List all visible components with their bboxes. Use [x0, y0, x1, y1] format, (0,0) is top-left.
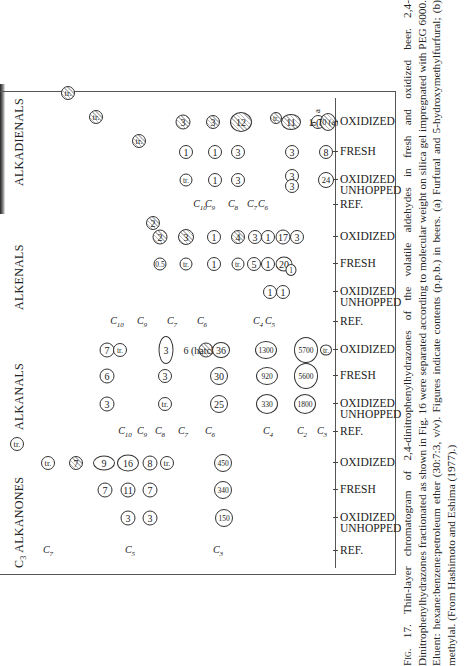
reference-carbon-label: C10: [118, 425, 132, 439]
lane-tick: [333, 462, 338, 463]
caption-text: Thin-layer chromatogram of 2,4-dinitroph…: [401, 0, 457, 666]
group-title-alkenals: ALKENALS: [12, 244, 27, 310]
lane-label: OXIDIZEDUNHOPPED: [340, 398, 401, 420]
tlc-spot: 3: [159, 336, 174, 364]
tlc-spot: 7: [143, 483, 158, 498]
tlc-spot: 1: [207, 230, 221, 244]
reference-carbon-label: C7: [167, 315, 177, 329]
lane-label: OXIDIZEDUNHOPPED: [340, 286, 401, 308]
lane-tick: [333, 349, 338, 350]
lane-label: FRESH: [340, 146, 376, 157]
tlc-spot: 3: [121, 511, 136, 526]
lane-label: REF.: [340, 426, 363, 437]
tlc-spot: 16: [117, 455, 139, 472]
tlc-spot: 2: [146, 216, 160, 230]
tlc-spot: 17: [276, 230, 291, 245]
tlc-spot: 330: [256, 394, 278, 414]
tlc-spot: 11: [121, 483, 136, 498]
tlc-spot: tr.: [180, 174, 193, 187]
tlc-spot: tr.: [61, 86, 75, 100]
lane-tick: [333, 204, 338, 205]
group-title-alkanones: C3 ALKANONES: [12, 477, 28, 568]
tlc-spot: 12: [230, 112, 252, 132]
tlc-spot: 9: [93, 456, 115, 471]
tlc-spot: 1: [208, 173, 222, 187]
tlc-spot: tr.: [10, 437, 24, 451]
tlc-spot: 8: [143, 456, 158, 471]
reference-carbon-label: C8: [228, 198, 238, 212]
reference-carbon-label: C4: [263, 425, 273, 439]
figure-caption: Fig. 17. Thin-layer chromatogram of 2,4-…: [400, 0, 458, 666]
tlc-spot: 1: [208, 145, 222, 159]
frame-right-line: [0, 91, 396, 92]
tlc-spot: 6: [100, 369, 115, 384]
tlc-spot: 1: [263, 285, 277, 299]
tlc-spot: 150: [215, 509, 233, 527]
tlc-spot: 3: [178, 229, 194, 245]
reference-carbon-label: C9: [205, 198, 215, 212]
reference-carbon-label: C7: [43, 544, 53, 558]
tlc-spot: 1: [286, 264, 297, 276]
rotated-figure: C3 ALKANONES ALKANALS ALKENALS ALKADIENA…: [0, 0, 469, 666]
lane-tick: [333, 517, 338, 518]
tlc-spot: 3: [285, 179, 299, 193]
tlc-spot: tr.: [232, 258, 245, 271]
lane-label: OXIDIZED: [340, 457, 395, 468]
tlc-spot: 3: [231, 173, 245, 187]
reference-carbon-label: C6: [197, 315, 207, 329]
tlc-spot: 1: [261, 257, 275, 271]
frame-left-line: [0, 574, 396, 575]
reference-carbon-label: C6: [205, 425, 215, 439]
tlc-spot: 1: [276, 285, 290, 299]
tlc-spot: 1: [261, 230, 275, 244]
reference-carbon-label: C5: [125, 544, 135, 558]
tlc-spot: 36: [212, 342, 230, 358]
lane-tick: [333, 550, 338, 551]
lane-label: REF.: [340, 316, 363, 327]
reference-carbon-label: C6: [258, 198, 268, 212]
lane-label: OXIDIZEDUNHOPPED: [340, 174, 401, 196]
tlc-spot: 1: [179, 145, 193, 159]
lane-label: REF.: [340, 545, 363, 556]
reference-carbon-label: C4: [253, 315, 263, 329]
tlc-spot: 5: [247, 257, 261, 271]
tlc-spot: tr.: [160, 456, 174, 470]
tlc-spot: 30: [210, 367, 228, 385]
tlc-spot: 0.5: [154, 258, 167, 271]
tlc-spot: 5700: [294, 337, 318, 363]
lane-label: FRESH: [340, 258, 376, 269]
tlc-spot: 70 (a): [320, 113, 336, 131]
caption-fig-label: Fig. 17.: [401, 624, 413, 666]
tlc-spot: 3: [231, 145, 245, 159]
tlc-spot: 450: [214, 454, 232, 472]
reference-carbon-label: C2: [297, 425, 307, 439]
reference-carbon-label: C9: [137, 425, 147, 439]
lane-tick: [333, 236, 338, 237]
tlc-spot: 24: [318, 172, 334, 188]
tlc-spot: tr.: [41, 456, 55, 470]
tlc-spot: 1300: [255, 341, 277, 359]
tlc-spot: tr.: [158, 397, 172, 411]
reference-carbon-label: C7: [178, 425, 188, 439]
lane-tick: [333, 151, 338, 152]
tlc-spot: 3: [176, 115, 191, 130]
reference-carbon-label: C9: [137, 315, 147, 329]
lane-tick: [333, 291, 338, 292]
tlc-spot: 3: [143, 511, 158, 526]
frame-top-line: [395, 91, 396, 575]
tlc-spot: 3: [285, 145, 299, 159]
lane-label: REF.: [340, 199, 363, 210]
lane-tick: [333, 431, 338, 432]
tlc-spot: 920: [256, 367, 278, 385]
baseline: [335, 98, 336, 568]
lane-tick: [333, 489, 338, 490]
tlc-spot: 3: [100, 397, 115, 412]
lane-label: OXIDIZED: [340, 116, 395, 127]
lane-label: FRESH: [340, 370, 376, 381]
tlc-spot: tr.: [89, 110, 103, 124]
tlc-spot: 2: [153, 230, 168, 245]
group-title-alkadienals: ALKADIENALS: [12, 98, 27, 186]
tlc-spot: tr.: [113, 343, 127, 357]
tlc-spot: 1800: [294, 394, 316, 414]
reference-carbon-label: C7: [247, 198, 257, 212]
